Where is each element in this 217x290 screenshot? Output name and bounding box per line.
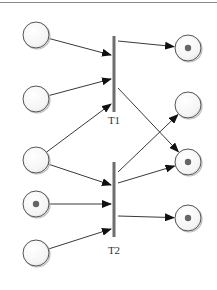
place-p6	[175, 35, 202, 62]
token-icon	[185, 159, 191, 165]
arc-p3-T1	[46, 104, 111, 152]
arc-p2-T1	[49, 79, 111, 96]
arcs	[46, 38, 178, 249]
place-p2	[23, 86, 50, 113]
token-icon	[185, 215, 191, 221]
petri-net-diagram: T1T2	[0, 0, 217, 290]
arc-T2-p8	[118, 166, 175, 183]
arc-T2-p9	[118, 216, 174, 218]
transition-label: T2	[108, 244, 120, 256]
arc-p5-T2	[48, 229, 111, 249]
arc-T2-p7	[118, 115, 178, 172]
place-p5	[23, 240, 50, 267]
place-p4	[23, 191, 50, 218]
place-p3	[23, 147, 50, 174]
arc-T1-p8	[118, 88, 178, 152]
arc-T1-p6	[118, 41, 174, 47]
transition-label: T1	[108, 114, 120, 126]
transitions: T1T2	[108, 36, 120, 256]
arc-p1-T1	[49, 38, 111, 55]
transition-T2: T2	[108, 162, 120, 256]
place-p9	[175, 205, 202, 232]
token-icon	[185, 45, 191, 51]
place-p8	[175, 149, 202, 176]
place-p7	[175, 92, 202, 119]
place-p1	[23, 22, 50, 49]
token-icon	[33, 201, 39, 207]
transition-T1: T1	[108, 36, 120, 126]
arc-p3-T2	[48, 164, 111, 185]
